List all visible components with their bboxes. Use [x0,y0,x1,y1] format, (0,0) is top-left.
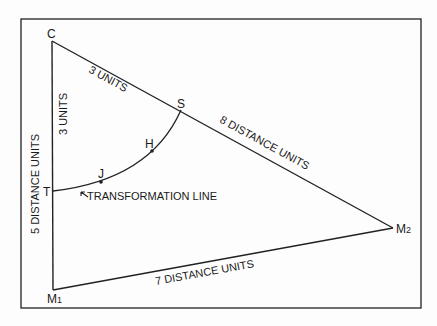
point-j-label: J [98,167,104,181]
transformation-arc [53,110,181,191]
label-ct-units: 3 UNITS [57,93,69,135]
point-c-label: C [47,27,56,41]
label-cs-units: 3 UNITS [87,63,130,94]
transformation-line-label: TRANSFORMATION LINE [87,190,217,202]
label-cm1-units: 5 DISTANCE UNITS [29,134,41,234]
point-t-label: T [43,185,51,199]
point-m1-label: M1 [47,292,62,306]
point-s-label: S [177,97,185,111]
point-h-label: H [145,137,154,151]
line-m1-m2 [53,228,393,290]
point-m2-label: M2 [396,222,411,236]
diagram-canvas: C S H J T M1 M2 3 UNITS 3 UNITS 8 DISTAN… [0,0,437,326]
line-c-m1 [52,41,53,290]
label-sm2-units: 8 DISTANCE UNITS [218,113,312,172]
